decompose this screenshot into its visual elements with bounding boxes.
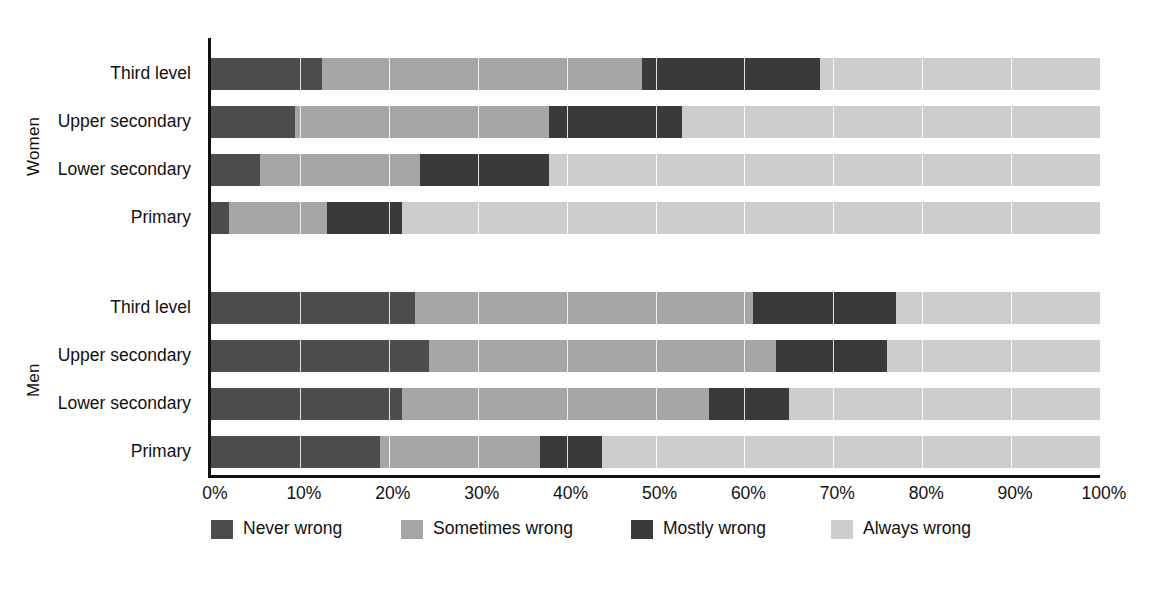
category-label: Upper secondary [0, 347, 191, 365]
bar-segment [896, 292, 1100, 324]
legend-label: Always wrong [863, 520, 971, 538]
x-tick-label: 60% [731, 483, 766, 504]
bar-segment [549, 106, 682, 138]
bar-row [211, 388, 1100, 420]
x-tick-label: 70% [820, 483, 855, 504]
category-label: Lower secondary [0, 161, 191, 179]
bar-segment [429, 340, 776, 372]
x-tick-label: 30% [464, 483, 499, 504]
bar-segment [682, 106, 1100, 138]
bar-segment [820, 58, 1100, 90]
legend-item[interactable]: Always wrong [831, 516, 971, 542]
bar-segment [540, 436, 602, 468]
bar-segment [229, 202, 327, 234]
legend-swatch-icon [831, 520, 853, 539]
bar-row [211, 292, 1100, 324]
bar-segment [420, 154, 549, 186]
legend-label: Never wrong [243, 520, 342, 538]
bar-segment [402, 388, 709, 420]
group-axis-label-men: Men [22, 292, 46, 468]
bar-segment [211, 58, 322, 90]
category-label: Third level [0, 299, 191, 317]
category-label: Primary [0, 443, 191, 461]
x-tick-label: 100% [1082, 483, 1127, 504]
legend-label: Mostly wrong [663, 520, 766, 538]
bar-segment [260, 154, 420, 186]
bar-segment [402, 202, 1100, 234]
bar-segment [211, 436, 380, 468]
legend-item[interactable]: Sometimes wrong [401, 516, 573, 542]
bar-segment [709, 388, 789, 420]
bar-segment [322, 58, 642, 90]
legend-label: Sometimes wrong [433, 520, 573, 538]
bar-row [211, 340, 1100, 372]
legend-swatch-icon [211, 520, 233, 539]
bar-segment [753, 292, 895, 324]
x-tick-label: 20% [375, 483, 410, 504]
plot-area [211, 38, 1100, 475]
x-tick-label: 40% [553, 483, 588, 504]
bar-segment [602, 436, 1100, 468]
category-label: Primary [0, 209, 191, 227]
x-tick-label: 50% [642, 483, 677, 504]
category-label: Lower secondary [0, 395, 191, 413]
bar-row [211, 202, 1100, 234]
legend-item[interactable]: Never wrong [211, 516, 342, 542]
legend-swatch-icon [631, 520, 653, 539]
gridline [1100, 38, 1101, 475]
legend-swatch-icon [401, 520, 423, 539]
x-tick-label: 0% [202, 483, 227, 504]
bar-segment [211, 202, 229, 234]
bar-segment [789, 388, 1100, 420]
legend: Never wrongSometimes wrongMostly wrongAl… [211, 516, 1100, 546]
bar-row [211, 154, 1100, 186]
group-axis-label-women: Women [22, 58, 46, 234]
bar-segment [211, 106, 295, 138]
bar-segment [415, 292, 753, 324]
x-tick-label: 90% [998, 483, 1033, 504]
stacked-bar-chart: Women Men Third levelUpper secondaryLowe… [0, 0, 1157, 590]
x-tick-label: 10% [286, 483, 321, 504]
category-label: Third level [0, 65, 191, 83]
bar-segment [211, 154, 260, 186]
bar-segment [380, 436, 540, 468]
bar-segment [549, 154, 1100, 186]
bar-segment [887, 340, 1100, 372]
bar-row [211, 58, 1100, 90]
bar-segment [327, 202, 403, 234]
category-label: Upper secondary [0, 113, 191, 131]
legend-item[interactable]: Mostly wrong [631, 516, 766, 542]
bar-segment [776, 340, 887, 372]
bar-segment [211, 388, 402, 420]
x-axis-line [208, 475, 1100, 478]
bar-segment [642, 58, 820, 90]
bar-row [211, 436, 1100, 468]
x-tick-label: 80% [909, 483, 944, 504]
bar-segment [211, 292, 415, 324]
bar-row [211, 106, 1100, 138]
bar-segment [295, 106, 548, 138]
bar-segment [211, 340, 429, 372]
